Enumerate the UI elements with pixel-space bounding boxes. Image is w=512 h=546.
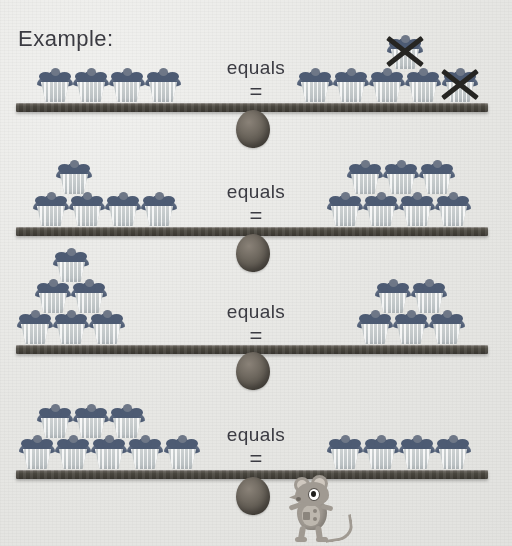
cupcake-icon[interactable] [72,68,110,102]
cupcake-icon[interactable] [434,435,472,469]
mouse-button [313,517,317,521]
cupcake-wrapper [396,324,426,344]
cupcake-icon[interactable] [404,68,442,102]
cupcake-icon[interactable] [332,68,370,102]
cupcake-wrapper [94,449,124,469]
cupcake-icon[interactable] [382,160,420,194]
cherry-icon [123,404,132,412]
cherry-icon [401,35,410,43]
cupcake-icon[interactable] [434,192,472,226]
cupcake-icon[interactable] [52,248,90,282]
cupcake-wrapper [76,82,106,102]
cupcake-wrapper [22,449,52,469]
cupcake-icon[interactable] [362,192,400,226]
mouse-eye [308,488,320,501]
cupcake-wrapper [167,449,197,469]
cupcake-wrapper [40,82,70,102]
cupcake-wrapper [330,206,360,226]
equals-word-3: equals [196,302,316,321]
cupcake-icon[interactable] [356,310,394,344]
cupcake-icon-crossed[interactable] [441,68,479,102]
cupcake-icon[interactable] [16,310,54,344]
cupcake-icon[interactable] [326,192,364,226]
cherry-icon [361,160,370,168]
cupcake-icon[interactable] [54,435,92,469]
cupcake-wrapper [330,449,360,469]
cupcake-icon[interactable] [163,435,201,469]
cupcake-icon[interactable] [368,68,406,102]
cherry-icon [119,192,128,200]
cupcake-icon-crossed[interactable] [386,35,424,69]
mouse-foot-left [295,537,307,542]
cupcake-icon[interactable] [108,404,146,438]
cupcake-icon[interactable] [90,435,128,469]
mouse-nose [296,497,301,501]
cupcake-icon[interactable] [70,279,108,313]
cupcake-wrapper [40,418,70,438]
cupcake-icon[interactable] [418,160,456,194]
cupcake-icon[interactable] [410,279,448,313]
cupcake-wrapper [56,262,86,282]
balance-row-4[interactable]: equals = [0,385,512,546]
cupcake-icon[interactable] [144,68,182,102]
cupcake-icon[interactable] [36,68,74,102]
cupcake-icon[interactable] [374,279,412,313]
equals-label-2: equals = [196,182,316,227]
cupcake-icon[interactable] [428,310,466,344]
cherry-icon [159,68,168,76]
equals-symbol-3: = [196,325,316,347]
cupcake-icon[interactable] [88,310,126,344]
cupcake-icon[interactable] [32,192,70,226]
cupcake-icon[interactable] [55,160,93,194]
balance-row-2[interactable]: equals = [0,135,512,245]
cupcake-icon[interactable] [126,435,164,469]
cherry-icon [397,160,406,168]
cupcake-icon[interactable] [36,404,74,438]
cupcake-wrapper [92,324,122,344]
balance-row-1[interactable]: equals = [0,0,512,140]
cherry-icon [311,68,320,76]
cupcake-icon[interactable] [18,435,56,469]
cupcake-icon[interactable] [34,279,72,313]
cupcake-icon[interactable] [140,192,178,226]
equals-label-4: equals = [196,425,316,470]
equals-word-2: equals [196,182,316,201]
cupcake-icon[interactable] [398,192,436,226]
cherry-icon [123,68,132,76]
cherry-icon [433,160,442,168]
cupcake-icon[interactable] [326,435,364,469]
mouse-mascot-icon [283,472,349,546]
cherry-icon [347,68,356,76]
cupcake-wrapper [402,206,432,226]
cupcake-wrapper [58,449,88,469]
cupcake-wrapper [372,82,402,102]
cupcake-wrapper [130,449,160,469]
equals-symbol-4: = [196,448,316,470]
cupcake-icon[interactable] [52,310,90,344]
cupcake-icon[interactable] [108,68,146,102]
cupcake-wrapper [20,324,50,344]
cupcake-icon[interactable] [392,310,430,344]
cupcake-icon[interactable] [104,192,142,226]
cupcake-wrapper [74,293,104,313]
cupcake-wrapper [432,324,462,344]
cherry-icon [70,160,79,168]
cupcake-icon[interactable] [398,435,436,469]
cupcake-wrapper [72,206,102,226]
cupcake-icon[interactable] [68,192,106,226]
cherry-icon [449,435,458,443]
cherry-icon [377,435,386,443]
cupcake-wrapper [76,418,106,438]
balance-row-3[interactable]: equals = [0,248,512,363]
cherry-icon [155,192,164,200]
cupcake-icon[interactable] [72,404,110,438]
cupcake-icon[interactable] [296,68,334,102]
cupcake-wrapper [56,324,86,344]
cherry-icon [178,435,187,443]
cherry-icon [456,68,465,76]
cupcake-icon[interactable] [346,160,384,194]
cupcake-wrapper [366,449,396,469]
cupcake-icon[interactable] [362,435,400,469]
cupcake-wrapper [59,174,89,194]
cupcake-wrapper [390,49,420,69]
